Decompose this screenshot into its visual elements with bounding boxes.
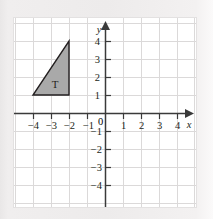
y-tick-label-3: 3 [95, 54, 100, 65]
y-tick-label--4: −4 [91, 180, 103, 191]
y-axis-label: y [96, 24, 102, 35]
y-tick-label-1: 1 [95, 90, 100, 101]
x-tick-label-1: 1 [121, 120, 126, 131]
x-tick-label-3: 3 [157, 120, 162, 131]
y-tick-label--2: −2 [91, 144, 102, 155]
y-tick-label-4: 4 [95, 36, 101, 47]
coordinate-grid-svg: −4 −3 −2 −1 0 1 2 3 4 4 3 2 1 −1 −2 −3 −… [14, 18, 196, 207]
x-axis-arrowhead [185, 109, 194, 118]
y-axis-arrowhead [101, 21, 110, 30]
x-tick-label-2: 2 [139, 120, 144, 131]
y-tick-label-2: 2 [95, 72, 100, 83]
plot-area: −4 −3 −2 −1 0 1 2 3 4 4 3 2 1 −1 −2 −3 −… [14, 18, 196, 207]
x-tick-label--2: −2 [64, 120, 75, 131]
x-tick-label--3: −3 [46, 120, 57, 131]
y-tick-label--3: −3 [91, 162, 102, 173]
x-tick-label-4: 4 [175, 120, 181, 131]
triangle-T-label: T [52, 78, 59, 90]
coordinate-plane-figure: −4 −3 −2 −1 0 1 2 3 4 4 3 2 1 −1 −2 −3 −… [0, 0, 213, 219]
y-tick-label--1: −1 [91, 126, 102, 137]
x-tick-label--4: −4 [28, 120, 40, 131]
x-axis-label: x [186, 119, 192, 130]
